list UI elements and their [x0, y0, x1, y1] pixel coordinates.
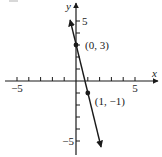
y-tick-label: −5: [62, 135, 74, 147]
data-point: [74, 43, 79, 48]
tick-labels: xy−555−5: [11, 0, 157, 147]
point-label: (0, 3): [85, 39, 109, 52]
y-tick-label: 5: [82, 15, 88, 27]
cropped-mark: [9, 0, 18, 2]
x-tick-label: −5: [11, 82, 23, 94]
data-points: (0, 3)(1, −1): [74, 39, 126, 108]
x-tick-label: 5: [132, 82, 138, 94]
y-axis-label: y: [65, 0, 71, 12]
point-label: (1, −1): [95, 95, 125, 108]
x-axis-label: x: [151, 67, 157, 79]
chart: xy−555−5 (0, 3)(1, −1): [0, 0, 162, 157]
data-point: [85, 91, 90, 96]
